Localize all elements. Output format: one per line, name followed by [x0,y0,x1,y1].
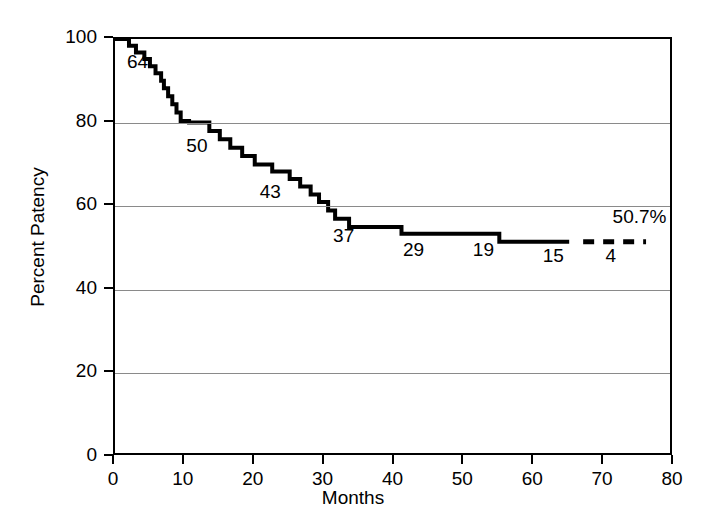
y-axis-title: Percent Patency [27,137,49,337]
x-tick-mark-80 [671,455,673,464]
at-risk-label-50: 50 [186,136,207,155]
at-risk-label-29: 29 [403,240,424,259]
x-tick-mark-60 [531,455,533,464]
x-tick-mark-50 [461,455,463,464]
x-tick-mark-0 [112,455,114,464]
y-tick-mark-40 [104,287,113,289]
x-tick-label-30: 30 [298,469,348,488]
x-tick-label-80: 80 [647,469,697,488]
plot-area [113,37,672,455]
y-tick-label-60: 60 [76,194,97,213]
x-tick-mark-70 [601,455,603,464]
x-axis-title: Months [0,487,706,509]
y-tick-mark-60 [104,203,113,205]
survival-curve-svg [115,39,674,457]
x-tick-label-40: 40 [368,469,418,488]
at-risk-label-19: 19 [473,240,494,259]
final-percent-label: 50.7% [613,207,667,226]
x-tick-label-20: 20 [228,469,278,488]
x-tick-mark-20 [252,455,254,464]
at-risk-label-43: 43 [260,182,281,201]
x-tick-mark-30 [322,455,324,464]
y-tick-mark-100 [104,36,113,38]
gridline-y-80 [115,123,670,124]
x-tick-label-50: 50 [437,469,487,488]
y-tick-label-20: 20 [76,361,97,380]
gridline-y-40 [115,290,670,291]
y-tick-label-80: 80 [76,111,97,130]
x-tick-mark-40 [392,455,394,464]
survival-curve-solid [115,39,569,242]
y-tick-label-0: 0 [86,445,97,464]
x-tick-mark-10 [182,455,184,464]
y-tick-mark-80 [104,120,113,122]
y-tick-mark-20 [104,370,113,372]
kaplan-meier-chart: Percent Patency Months 02040608010001020… [0,0,706,527]
at-risk-label-37: 37 [333,226,354,245]
gridline-y-60 [115,206,670,207]
y-tick-label-40: 40 [76,278,97,297]
x-tick-label-60: 60 [507,469,557,488]
y-tick-label-100: 100 [65,27,97,46]
at-risk-label-4: 4 [606,246,617,265]
gridline-y-20 [115,373,670,374]
x-tick-label-70: 70 [577,469,627,488]
x-tick-label-0: 0 [88,469,138,488]
at-risk-label-64: 64 [127,52,148,71]
x-tick-label-10: 10 [158,469,208,488]
at-risk-label-15: 15 [543,246,564,265]
